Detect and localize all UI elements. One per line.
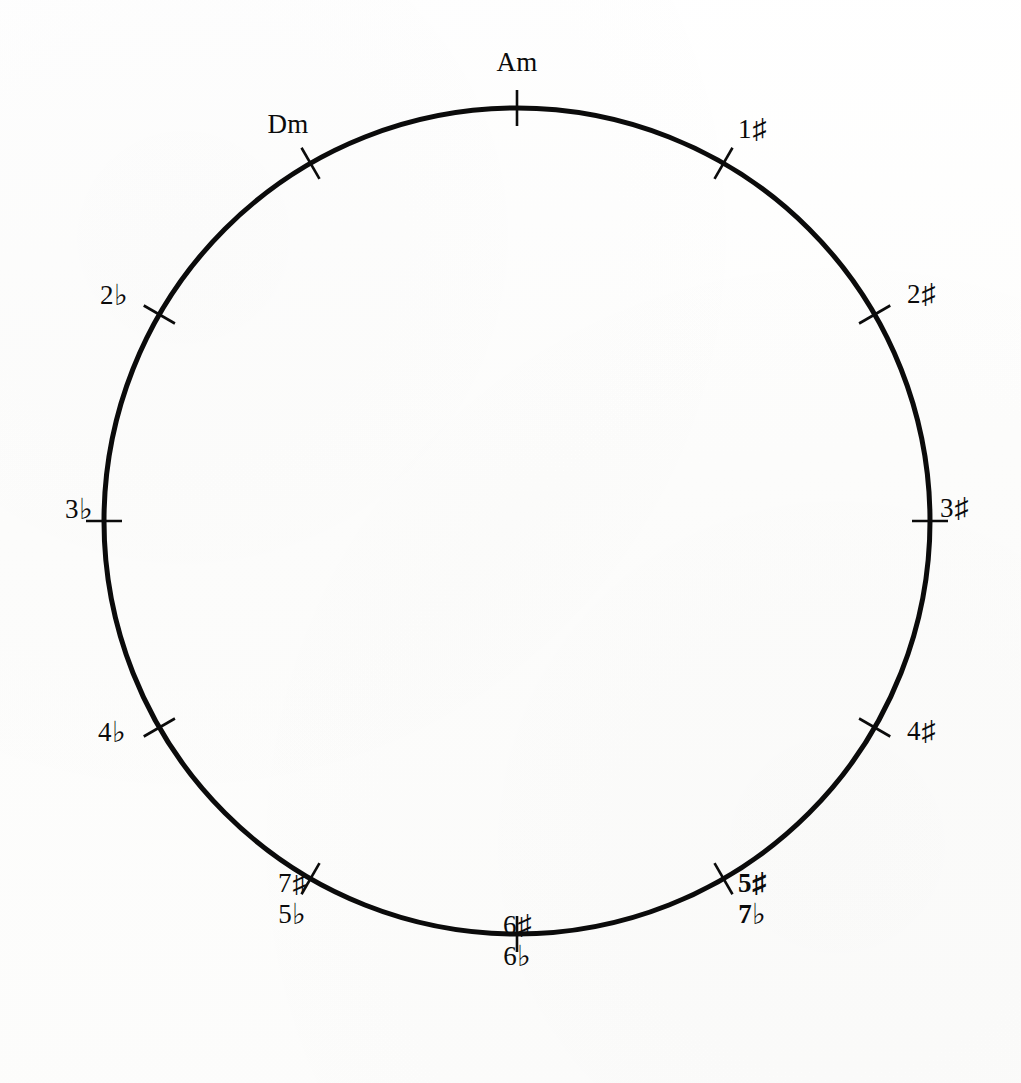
mark-label-text: 6 — [503, 941, 517, 971]
sharp-sign-icon: ♯ — [292, 867, 307, 898]
mark-label-text: 5 — [278, 899, 292, 929]
mark-label-line: 3♭ — [65, 493, 93, 524]
mark-label-line: 7♭ — [738, 898, 766, 929]
tick-mark-sharp-4 — [859, 719, 890, 737]
mark-label-sharp-2: 2♯ — [907, 279, 935, 309]
circle-outline — [104, 108, 930, 934]
flat-sign-icon: ♭ — [112, 716, 126, 748]
mark-label-sharp-1: 1♯ — [738, 114, 766, 144]
sharp-sign-icon: ♯ — [921, 278, 936, 309]
mark-label-line: 2♭ — [100, 279, 128, 310]
tick-mark-flat-2 — [144, 306, 175, 324]
tick-mark-sharp-2 — [859, 306, 890, 324]
mark-label-sharp-3: 3♯ — [940, 493, 968, 523]
mark-label-text: 5 — [738, 868, 752, 898]
flat-sign-icon: ♭ — [517, 940, 531, 972]
mark-label-flat-3: 3♭ — [65, 493, 93, 524]
mark-label-line: 5♭ — [278, 898, 306, 929]
mark-label-dm: Dm — [268, 110, 309, 139]
mark-label-line: 3♯ — [940, 493, 968, 523]
mark-label-line: Dm — [268, 110, 309, 139]
mark-label-line: 5♯ — [738, 868, 766, 898]
circle-outline-group — [104, 108, 930, 934]
tick-mark-dm — [302, 148, 320, 179]
mark-label-text: 6 — [503, 910, 517, 940]
flat-sign-icon: ♭ — [752, 898, 766, 930]
mark-label-sharp-7-flat-5: 7♯5♭ — [278, 868, 306, 928]
mark-label-line: Am — [497, 48, 538, 77]
mark-label-line: 2♯ — [907, 279, 935, 309]
mark-label-am: Am — [497, 48, 538, 77]
tick-mark-sharp-5-flat-7 — [715, 863, 733, 894]
figure-page: Am1♯2♯3♯4♯5♯7♭6♯6♭7♯5♭4♭3♭2♭Dm — [0, 0, 1021, 1083]
mark-label-flat-2: 2♭ — [100, 279, 128, 310]
mark-label-line: 1♯ — [738, 114, 766, 144]
flat-sign-icon: ♭ — [79, 493, 93, 525]
mark-label-line: 6♯ — [503, 910, 531, 940]
mark-label-text: 7 — [738, 899, 752, 929]
sharp-sign-icon: ♯ — [517, 909, 532, 940]
mark-label-text: 2 — [100, 280, 114, 310]
mark-label-line: 7♯ — [278, 868, 306, 898]
mark-label-text: 4 — [98, 717, 112, 747]
mark-label-text: 1 — [738, 114, 752, 144]
mark-label-line: 4♯ — [907, 716, 935, 746]
tick-mark-flat-4 — [144, 719, 175, 737]
sharp-sign-icon: ♯ — [752, 867, 767, 898]
mark-label-text: 2 — [907, 279, 921, 309]
mark-label-text: 7 — [278, 868, 292, 898]
flat-sign-icon: ♭ — [292, 898, 306, 930]
sharp-sign-icon: ♯ — [752, 113, 767, 144]
mark-label-flat-4: 4♭ — [98, 716, 126, 747]
mark-label-sharp-6-flat-6: 6♯6♭ — [503, 910, 531, 970]
flat-sign-icon: ♭ — [114, 279, 128, 311]
mark-label-text: 3 — [940, 493, 954, 523]
sharp-sign-icon: ♯ — [954, 492, 969, 523]
sharp-sign-icon: ♯ — [921, 715, 936, 746]
mark-label-text: 4 — [907, 716, 921, 746]
mark-label-sharp-5-flat-7: 5♯7♭ — [738, 868, 766, 928]
mark-label-line: 4♭ — [98, 716, 126, 747]
mark-label-line: 6♭ — [503, 940, 531, 971]
mark-label-sharp-4: 4♯ — [907, 716, 935, 746]
tick-marks-group — [86, 90, 948, 952]
tick-mark-sharp-1 — [715, 148, 733, 179]
mark-label-text: 3 — [65, 494, 79, 524]
